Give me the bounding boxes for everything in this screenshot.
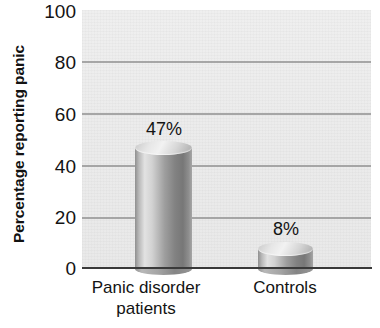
y-tick-label-0: 0 — [30, 259, 76, 278]
x-axis-label-line1: Controls — [226, 277, 344, 298]
data-label-controls: 8% — [246, 220, 326, 238]
x-axis-label-controls: Controls — [226, 277, 344, 298]
x-axis-line — [82, 267, 372, 269]
x-axis-label-panic-disorder-patients: Panic disorder patients — [79, 277, 213, 319]
gridline-60 — [82, 113, 371, 115]
plot-area: 47% 8% — [82, 10, 371, 269]
y-tick-label-100: 100 — [30, 2, 76, 21]
y-tick-label-40: 40 — [30, 157, 76, 176]
gridline-40 — [82, 165, 371, 167]
bar-top-ellipse — [135, 141, 192, 155]
data-label-panic-disorder-patients: 47% — [124, 120, 204, 138]
bar-controls — [258, 242, 313, 269]
gridline-20 — [82, 217, 371, 219]
y-tick-label-60: 60 — [30, 105, 76, 124]
y-tick-label-20: 20 — [30, 208, 76, 227]
y-tick-label-80: 80 — [30, 53, 76, 72]
gridline-80 — [82, 61, 371, 63]
bar-top-ellipse — [258, 242, 313, 256]
bar-body — [135, 148, 192, 269]
x-axis-label-line1: Panic disorder — [79, 277, 213, 298]
bar-chart: Percentage reporting panic 100 80 60 40 … — [0, 0, 380, 328]
bar-panic-disorder-patients — [135, 141, 192, 269]
y-axis-tick-labels: 100 80 60 40 20 0 — [26, 0, 76, 328]
x-axis-label-line2: patients — [79, 298, 213, 319]
